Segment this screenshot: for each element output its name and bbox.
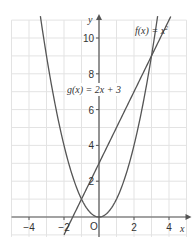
y-tick-label: 6 bbox=[88, 105, 94, 116]
x-tick-label: 4 bbox=[166, 222, 172, 233]
y-tick-label: 4 bbox=[88, 140, 94, 151]
x-tick-label: −4 bbox=[23, 222, 35, 233]
g-label: g(x) = 2x + 3 bbox=[67, 84, 121, 96]
y-axis-label: y bbox=[87, 14, 93, 25]
x-tick-label: −2 bbox=[58, 222, 70, 233]
y-tick-label: 2 bbox=[88, 176, 94, 187]
x-tick-label: 2 bbox=[131, 222, 137, 233]
graph: −4−224246810 f(x) = x2 g(x) = 2x + 3 x y… bbox=[0, 0, 192, 241]
y-tick-label: 10 bbox=[83, 33, 95, 44]
annotations: f(x) = x2 g(x) = 2x + 3 x y O bbox=[66, 14, 185, 234]
y-tick-label: 8 bbox=[88, 69, 94, 80]
x-axis-label: x bbox=[179, 223, 185, 234]
y-arrow-icon bbox=[96, 14, 102, 20]
origin-label: O bbox=[90, 221, 98, 232]
axes bbox=[12, 14, 192, 237]
f-label: f(x) = x2 bbox=[135, 25, 168, 37]
x-arrow-icon bbox=[186, 214, 192, 220]
g-line bbox=[64, 17, 171, 235]
